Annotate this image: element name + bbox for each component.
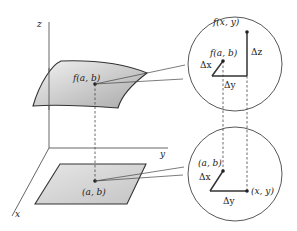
- diagram-canvas: f(a, b) (a, b) z y x f(a, b) f(x, y) Δx …: [0, 0, 297, 231]
- upper-fxy-label: f(x, y): [212, 17, 240, 27]
- surface-point-label: f(a, b): [72, 73, 101, 83]
- upper-dz-label: Δz: [251, 47, 262, 57]
- x-axis-label: x: [15, 209, 20, 219]
- lower-dx-label: Δx: [199, 172, 211, 182]
- lower-xy-label: (x, y): [251, 186, 274, 196]
- upper-dy-label: Δy: [224, 80, 236, 90]
- upper-dx-label: Δx: [200, 60, 212, 70]
- y-axis-label: y: [159, 149, 166, 159]
- z-axis-label: z: [36, 19, 42, 29]
- lower-dy-label: Δy: [223, 196, 235, 206]
- x-axis: [12, 148, 49, 216]
- lower-ab-label: (a, b): [198, 158, 222, 168]
- upper-fab-label: f(a, b): [209, 48, 238, 58]
- domain-point-label: (a, b): [82, 187, 106, 197]
- surface-patch: [33, 61, 147, 108]
- domain-region: [35, 164, 146, 204]
